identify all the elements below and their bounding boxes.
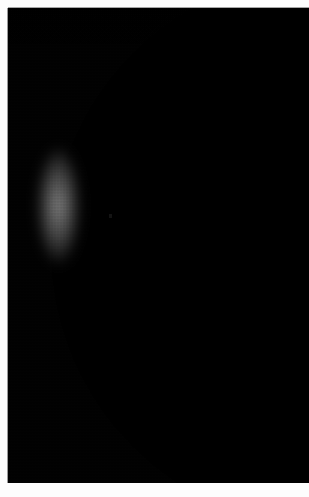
page-root <box>0 0 309 497</box>
crescent-planet-photograph <box>8 8 309 483</box>
caption-area <box>8 484 309 497</box>
crescent-stage <box>8 8 309 483</box>
